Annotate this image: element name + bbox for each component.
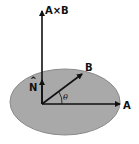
label-b: B <box>85 62 93 73</box>
label-normal-hat: ^ <box>30 76 37 85</box>
plane-ellipse <box>10 69 120 135</box>
label-a-cross-b: A×B <box>45 5 69 16</box>
label-theta: θ <box>63 93 68 102</box>
cross-product-diagram: A×B B A N ^ θ <box>0 0 139 144</box>
label-a: A <box>123 100 131 111</box>
